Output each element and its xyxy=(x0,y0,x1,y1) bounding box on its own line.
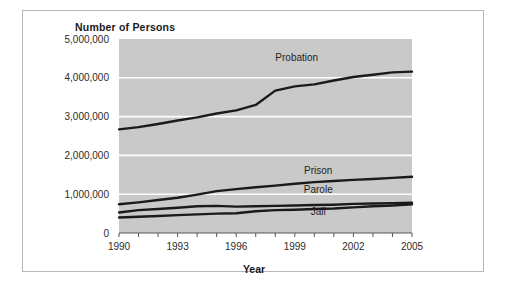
x-axis-tick-label: 1993 xyxy=(166,241,189,252)
x-axis-tick-labels: 199019931996199920022005 xyxy=(108,241,424,252)
x-axis-title: Year xyxy=(23,263,485,275)
x-axis-tick-label: 1999 xyxy=(284,241,307,252)
series-label-parole: Parole xyxy=(304,184,333,195)
y-axis-tick-label: 2,000,000 xyxy=(65,150,110,161)
series-label-prison: Prison xyxy=(304,165,332,176)
figure-frame: Number of Persons 01,000,0002,000,0003,0… xyxy=(22,10,484,272)
x-axis-tick-label: 1996 xyxy=(225,241,248,252)
series-label-jail: Jail xyxy=(311,206,326,217)
x-axis-tick-label: 2002 xyxy=(342,241,365,252)
y-axis-tick-label: 5,000,000 xyxy=(65,34,110,45)
y-axis-tick-labels: 01,000,0002,000,0003,000,0004,000,0005,0… xyxy=(65,34,110,239)
series-label-probation: Probation xyxy=(275,52,318,63)
y-axis-tick-label: 4,000,000 xyxy=(65,72,110,83)
y-axis-tick-label: 3,000,000 xyxy=(65,111,110,122)
x-axis-tick-label: 1990 xyxy=(108,241,131,252)
x-axis-tick-label: 2005 xyxy=(401,241,424,252)
x-axis-tick-marks xyxy=(119,233,412,237)
y-axis-tick-label: 0 xyxy=(103,228,109,239)
line-chart: 01,000,0002,000,0003,000,0004,000,0005,0… xyxy=(23,11,485,273)
y-axis-tick-label: 1,000,000 xyxy=(65,189,110,200)
